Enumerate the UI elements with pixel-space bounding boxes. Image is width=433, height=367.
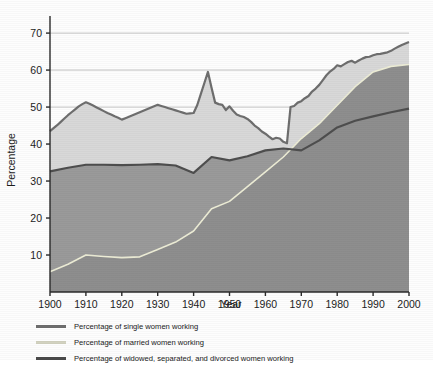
legend-swatch-married [36,341,66,344]
svg-text:2000: 2000 [397,298,421,310]
svg-text:1970: 1970 [290,298,314,310]
svg-text:50: 50 [30,101,42,113]
svg-text:1960: 1960 [254,298,278,310]
x-axis-title: Year [220,298,242,310]
svg-text:1990: 1990 [361,298,385,310]
chart-legend: Percentage of single women working Perce… [36,320,416,367]
area-chart-figure: 10203040506070 1900191019201930194019501… [0,0,433,312]
legend-label-widowed: Percentage of widowed, separated, and di… [74,354,294,363]
svg-text:1930: 1930 [146,298,170,310]
y-tick-labels: 10203040506070 [30,27,42,261]
legend-swatch-widowed [36,357,66,360]
svg-text:70: 70 [30,27,42,39]
svg-text:1920: 1920 [110,298,134,310]
svg-text:1940: 1940 [182,298,206,310]
svg-text:10: 10 [30,249,42,261]
legend-label-single: Percentage of single women working [74,322,198,331]
legend-item-married: Percentage of married women working [36,336,416,348]
legend-item-single: Percentage of single women working [36,320,416,332]
legend-label-married: Percentage of married women working [74,338,204,347]
svg-text:1900: 1900 [38,298,62,310]
svg-text:20: 20 [30,212,42,224]
legend-swatch-single [36,325,66,328]
series-areas [50,42,409,292]
svg-text:1980: 1980 [326,298,350,310]
svg-text:30: 30 [30,175,42,187]
svg-text:1910: 1910 [74,298,98,310]
y-axis-title: Percentage [5,133,17,187]
svg-text:40: 40 [30,138,42,150]
svg-text:60: 60 [30,64,42,76]
legend-item-widowed: Percentage of widowed, separated, and di… [36,352,416,364]
chart-svg: 10203040506070 1900191019201930194019501… [0,0,433,312]
